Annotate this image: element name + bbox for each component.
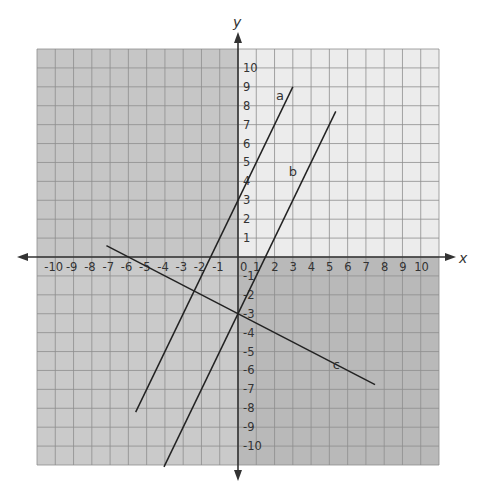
y-axis-up-arrow-icon — [234, 32, 242, 43]
y-tick-label: 2 — [243, 212, 250, 226]
y-tick-label: 6 — [243, 137, 250, 151]
x-tick-label: -6 — [121, 260, 132, 274]
x-axis-right-arrow-icon — [445, 253, 456, 261]
y-tick-label: 1 — [243, 231, 250, 245]
quadrant-2 — [37, 49, 238, 257]
y-axis-down-arrow-icon — [234, 470, 242, 481]
line-label-b: b — [289, 164, 297, 179]
x-tick-label: -7 — [102, 260, 113, 274]
y-tick-label: 3 — [243, 193, 250, 207]
x-tick-label: 8 — [381, 260, 388, 274]
x-tick-label: 7 — [363, 260, 370, 274]
y-tick-label: -10 — [243, 439, 262, 453]
y-tick-label: 7 — [243, 118, 250, 132]
x-tick-label: 10 — [414, 260, 429, 274]
y-tick-label: -4 — [243, 326, 254, 340]
line-label-a: a — [276, 88, 284, 103]
quadrant-3 — [37, 257, 238, 465]
y-tick-label: -6 — [243, 363, 254, 377]
y-tick-label: -9 — [243, 420, 254, 434]
y-tick-label: 10 — [243, 61, 258, 75]
coordinate-plane-chart: xy -10-9-8-7-6-5-4-3-2-1012345678910-10-… — [0, 0, 490, 501]
y-tick-label: -7 — [243, 382, 254, 396]
x-tick-label: 3 — [290, 260, 297, 274]
y-axis-label: y — [232, 14, 242, 30]
x-tick-label: -4 — [157, 260, 168, 274]
x-tick-label: -1 — [212, 260, 223, 274]
y-tick-label: 9 — [243, 80, 250, 94]
x-axis-left-arrow-icon — [17, 253, 28, 261]
x-tick-label: -9 — [66, 260, 77, 274]
quadrant-1 — [238, 49, 439, 257]
y-tick-label: 8 — [243, 99, 250, 113]
y-tick-label: -1 — [243, 269, 254, 283]
x-tick-label: 6 — [344, 260, 351, 274]
x-tick-label: -8 — [84, 260, 95, 274]
x-tick-label: -10 — [44, 260, 63, 274]
x-tick-label: 2 — [271, 260, 278, 274]
x-axis-label: x — [458, 250, 468, 266]
x-tick-label: -3 — [176, 260, 187, 274]
y-tick-label: 5 — [243, 155, 250, 169]
line-label-c: c — [333, 357, 340, 372]
x-tick-label: 9 — [399, 260, 406, 274]
y-tick-label: -8 — [243, 401, 254, 415]
y-tick-label: -5 — [243, 345, 254, 359]
x-tick-label: 5 — [326, 260, 333, 274]
x-tick-label: 4 — [308, 260, 315, 274]
